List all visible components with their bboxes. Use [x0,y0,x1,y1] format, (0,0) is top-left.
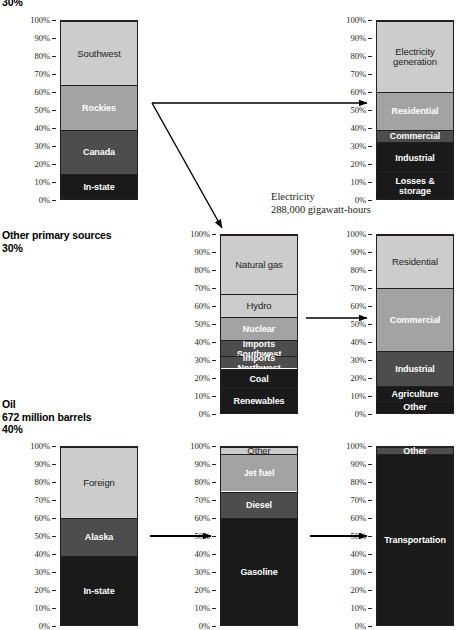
bar-segment: Commercial [377,288,453,350]
y-axis-tick-label: 90% [34,33,50,42]
bar-segment-label: Hydro [246,301,273,311]
y-axis-tick-mark [52,608,56,609]
bar-segment: Agriculture [377,386,453,400]
bar-segment-label: Alaska [84,532,114,542]
y-axis: 100%90%80%70%60%50%40%30%20%10%0% [180,234,216,414]
bar-segment-label: Foreign [82,478,116,488]
bar-segment: Jet fuel [221,454,297,491]
y-axis-tick-label: 10% [34,177,50,186]
y-axis: 100%90%80%70%60%50%40%30%20%10%0% [20,20,56,200]
y-axis-tick-mark [212,590,216,591]
bar-segment-label: In-state [82,182,115,192]
y-axis-tick-label: 0% [39,195,50,204]
bar-segment: Diesel [221,492,297,519]
bar-segment-label: Residential [391,257,439,267]
y-axis: 100%90%80%70%60%50%40%30%20%10%0% [180,446,216,626]
y-axis-tick-mark [52,200,56,201]
y-axis-tick-mark [368,536,372,537]
section-caption-other-primary-sources: Other primary sources 30% [2,229,111,254]
y-axis-tick-mark [368,590,372,591]
y-axis-tick-mark [212,500,216,501]
y-axis-tick-mark [52,146,56,147]
y-axis-tick-label: 30% [34,567,50,576]
y-axis-tick-label: 90% [350,247,366,256]
y-axis-tick-label: 30% [34,141,50,150]
bar-segment: Foreign [61,447,137,518]
bar-segment: Other [221,447,297,454]
bar-segment: Southwest [61,21,137,85]
y-axis-tick-label: 70% [34,495,50,504]
y-axis-tick-mark [368,252,372,253]
y-axis-tick-label: 100% [346,15,366,24]
y-axis-tick-label: 90% [34,459,50,468]
y-axis-tick-mark [368,626,372,627]
y-axis-tick-mark [52,464,56,465]
y-axis-tick-mark [368,324,372,325]
bar-segment-label: Losses & storage [394,176,435,196]
y-axis-tick-mark [212,626,216,627]
y-axis-tick-label: 10% [34,603,50,612]
y-axis-tick-mark [368,482,372,483]
y-axis-tick-mark [368,128,372,129]
chart-other-primary-sources: 100%90%80%70%60%50%40%30%20%10%0%Natural… [180,234,298,414]
y-axis-tick-mark [52,554,56,555]
y-axis-tick-mark [212,324,216,325]
bar-segment-label: Industrial [394,153,436,163]
bar-segment: Alaska [61,518,137,555]
stacked-bar: ResidentialCommercialIndustrialAgricultu… [376,234,454,414]
y-axis-tick-label: 70% [194,495,210,504]
y-axis: 100%90%80%70%60%50%40%30%20%10%0% [336,234,372,414]
stacked-bar: OtherJet fuelDieselGasoline [220,446,298,626]
y-axis-tick-mark [212,396,216,397]
y-axis-tick-label: 40% [350,337,366,346]
bar-segment-label: Commercial [389,315,442,325]
stacked-bar: ForeignAlaskaIn-state [60,446,138,626]
y-axis-tick-mark [368,396,372,397]
y-axis-tick-mark [52,110,56,111]
section-caption-electricity: 30% [2,0,23,9]
y-axis-tick-mark [212,554,216,555]
y-axis-tick-label: 40% [34,123,50,132]
y-axis-tick-label: 50% [34,105,50,114]
y-axis-tick-label: 80% [350,51,366,60]
y-axis-tick-label: 20% [350,159,366,168]
y-axis-tick-label: 70% [350,495,366,504]
bar-segment: Transportation [377,454,453,625]
y-axis-tick-label: 30% [350,355,366,364]
bar-segment-label: Coal [248,374,269,384]
y-axis-tick-label: 0% [355,621,366,630]
bar-segment: Canada [61,130,137,175]
y-axis-tick-mark [52,536,56,537]
bar-segment: Other [377,447,453,454]
y-axis-tick-label: 40% [194,337,210,346]
stacked-bar: OtherTransportation [376,446,454,626]
y-axis-tick-label: 20% [350,373,366,382]
y-axis-tick-label: 60% [194,513,210,522]
bar-segment: Gasoline [221,518,297,625]
y-axis-tick-label: 70% [194,283,210,292]
stacked-bar: Electricity generationResidentialCommerc… [376,20,454,200]
y-axis-tick-mark [368,500,372,501]
y-axis-tick-label: 90% [350,459,366,468]
y-axis-tick-label: 40% [350,549,366,558]
bar-segment: Electricity generation [377,21,453,92]
y-axis-tick-mark [212,414,216,415]
y-axis-tick-mark [212,446,216,447]
y-axis-tick-mark [368,608,372,609]
stacked-bar: Natural gasHydroNuclearImports Southwest… [220,234,298,414]
y-axis-tick-label: 50% [350,319,366,328]
bar-segment: Imports Northwest [221,356,297,368]
y-axis-tick-label: 100% [190,229,210,238]
y-axis-tick-mark [212,482,216,483]
chart-other-primary-uses: 100%90%80%70%60%50%40%30%20%10%0%Residen… [336,234,454,414]
bar-segment-label: In-state [82,586,115,596]
y-axis-tick-mark [212,306,216,307]
bar-segment-label: Rockies [81,103,117,113]
bar-segment: Hydro [221,294,297,317]
y-axis-tick-label: 80% [350,265,366,274]
y-axis-tick-mark [368,234,372,235]
y-axis-tick-mark [368,554,372,555]
y-axis-tick-mark [52,482,56,483]
y-axis-tick-label: 100% [30,441,50,450]
y-axis-tick-label: 10% [350,391,366,400]
